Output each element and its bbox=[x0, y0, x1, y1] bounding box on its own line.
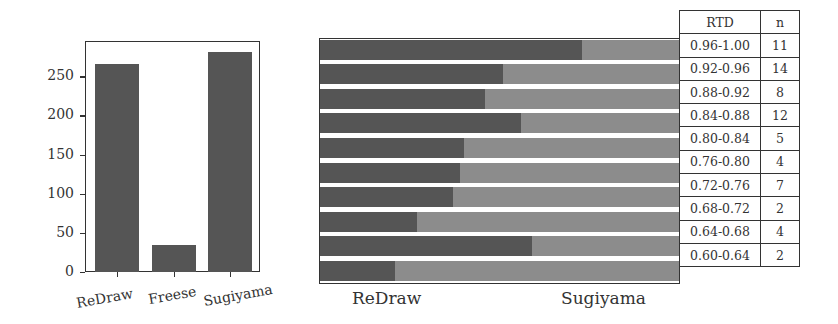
table-row: 0.72-0.767 bbox=[680, 174, 800, 197]
cell-rtd: 0.96-1.00 bbox=[680, 34, 761, 57]
table-row: 0.92-0.9614 bbox=[680, 57, 800, 80]
segment-redraw bbox=[320, 187, 453, 207]
segment-sugiyama bbox=[417, 212, 679, 232]
table-row: 0.60-0.642 bbox=[680, 243, 800, 266]
cell-n: 2 bbox=[761, 197, 800, 220]
stacked-row bbox=[320, 113, 679, 133]
segment-redraw bbox=[320, 261, 395, 281]
stacked-row bbox=[320, 236, 679, 256]
table-row: 0.64-0.684 bbox=[680, 220, 800, 243]
segment-sugiyama bbox=[464, 138, 679, 158]
segment-redraw bbox=[320, 89, 485, 109]
stacked-row bbox=[320, 40, 679, 60]
stacked-row bbox=[320, 187, 679, 207]
cell-rtd: 0.76-0.80 bbox=[680, 150, 761, 173]
segment-redraw bbox=[320, 40, 582, 60]
segment-redraw bbox=[320, 113, 521, 133]
stacked-row bbox=[320, 64, 679, 84]
segment-redraw bbox=[320, 64, 503, 84]
segment-sugiyama bbox=[460, 163, 679, 183]
table-row: 0.88-0.928 bbox=[680, 80, 800, 103]
table-row: 0.76-0.804 bbox=[680, 150, 800, 173]
label-sugiyama: Sugiyama bbox=[561, 288, 646, 308]
table-row: 0.96-1.0011 bbox=[680, 34, 800, 57]
cell-rtd: 0.84-0.88 bbox=[680, 104, 761, 127]
segment-sugiyama bbox=[582, 40, 679, 60]
cell-rtd: 0.92-0.96 bbox=[680, 57, 761, 80]
cell-rtd: 0.80-0.84 bbox=[680, 127, 761, 150]
cell-n: 7 bbox=[761, 174, 800, 197]
table-row: 0.68-0.722 bbox=[680, 197, 800, 220]
header-rtd: RTD bbox=[680, 11, 761, 34]
segment-redraw bbox=[320, 236, 532, 256]
cell-n: 4 bbox=[761, 150, 800, 173]
cell-n: 4 bbox=[761, 220, 800, 243]
header-n: n bbox=[761, 11, 800, 34]
stacked-row bbox=[320, 89, 679, 109]
stacked-plot-area bbox=[319, 38, 680, 284]
table-row: 0.80-0.845 bbox=[680, 127, 800, 150]
segment-sugiyama bbox=[395, 261, 679, 281]
segment-sugiyama bbox=[453, 187, 679, 207]
stacked-bar-chart-rtd: ReDraw Sugiyama RTD n 0.96-1.00110.92-0.… bbox=[0, 0, 838, 324]
cell-n: 5 bbox=[761, 127, 800, 150]
stacked-row bbox=[320, 212, 679, 232]
cell-rtd: 0.60-0.64 bbox=[680, 243, 761, 266]
cell-n: 2 bbox=[761, 243, 800, 266]
cell-rtd: 0.68-0.72 bbox=[680, 197, 761, 220]
segment-redraw bbox=[320, 212, 417, 232]
segment-redraw bbox=[320, 138, 464, 158]
segment-sugiyama bbox=[485, 89, 679, 109]
stacked-row bbox=[320, 138, 679, 158]
segment-sugiyama bbox=[521, 113, 679, 133]
cell-rtd: 0.72-0.76 bbox=[680, 174, 761, 197]
cell-n: 12 bbox=[761, 104, 800, 127]
table-row: 0.84-0.8812 bbox=[680, 104, 800, 127]
segment-sugiyama bbox=[503, 64, 679, 84]
stacked-row bbox=[320, 261, 679, 281]
cell-rtd: 0.88-0.92 bbox=[680, 80, 761, 103]
rtd-table: RTD n 0.96-1.00110.92-0.96140.88-0.9280.… bbox=[679, 10, 800, 267]
stacked-row bbox=[320, 163, 679, 183]
cell-n: 8 bbox=[761, 80, 800, 103]
segment-redraw bbox=[320, 163, 460, 183]
table-header-row: RTD n bbox=[680, 11, 800, 34]
segment-sugiyama bbox=[532, 236, 679, 256]
cell-rtd: 0.64-0.68 bbox=[680, 220, 761, 243]
cell-n: 14 bbox=[761, 57, 800, 80]
cell-n: 11 bbox=[761, 34, 800, 57]
label-redraw: ReDraw bbox=[352, 288, 421, 308]
